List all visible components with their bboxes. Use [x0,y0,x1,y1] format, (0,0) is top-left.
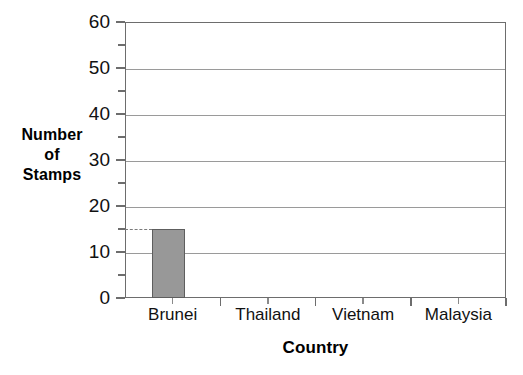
y-tick-label-30: 30 [70,150,110,169]
gridline-30 [126,161,505,162]
gridline-50 [126,69,505,70]
y-tick-major-0 [116,297,125,299]
gridline-20 [126,207,505,208]
y-tick-minor-55 [118,44,125,46]
x-tick-minor-3 [458,298,460,304]
gridline-40 [126,115,505,116]
bar-brunei [152,229,185,298]
x-tick-minor-0 [172,298,174,304]
x-tick-label-malaysia: Malaysia [411,306,506,323]
y-tick-label-60: 60 [70,12,110,31]
y-tick-label-50: 50 [70,58,110,77]
x-tick-major-1 [315,298,317,306]
y-tick-minor-15 [118,228,125,230]
y-tick-label-0: 0 [70,288,110,307]
x-tick-label-brunei: Brunei [125,306,220,323]
x-axis-title: Country [125,338,506,358]
y-axis-title-line-1: Number [4,125,100,145]
y-tick-minor-45 [118,90,125,92]
x-tick-label-thailand: Thailand [220,306,315,323]
y-tick-label-20: 20 [70,196,110,215]
x-tick-label-vietnam: Vietnam [316,306,411,323]
y-tick-major-50 [116,67,125,69]
chart-page: Number of Stamps 0102030405060BruneiThai… [0,0,523,375]
x-tick-major-2 [410,298,412,306]
x-tick-major-3 [505,298,507,306]
dashed-leader-15 [125,229,152,230]
y-tick-label-10: 10 [70,242,110,261]
x-tick-minor-2 [362,298,364,304]
y-tick-major-40 [116,113,125,115]
y-tick-major-20 [116,205,125,207]
x-tick-major-0 [220,298,222,306]
y-tick-label-40: 40 [70,104,110,123]
y-tick-minor-5 [118,274,125,276]
y-tick-major-10 [116,251,125,253]
x-tick-minor-1 [267,298,269,304]
y-tick-major-30 [116,159,125,161]
y-tick-minor-25 [118,182,125,184]
y-tick-minor-35 [118,136,125,138]
y-tick-major-60 [116,21,125,23]
